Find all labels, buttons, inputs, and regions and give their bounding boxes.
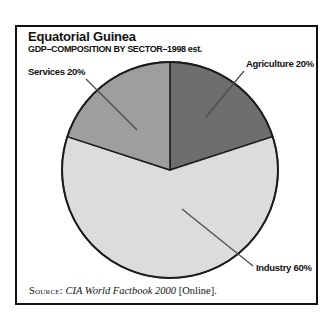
source-work-title: CIA World Factbook 2000	[66, 285, 177, 296]
source-citation: Source: CIA World Factbook 2000 [Online]…	[29, 285, 217, 296]
figure-page: Equatorial Guinea GDP–COMPOSITION BY SEC…	[0, 0, 334, 319]
slice-label-services: Services 20%	[28, 66, 85, 77]
pie-slices	[62, 62, 278, 278]
source-suffix: [Online].	[179, 285, 217, 296]
source-prefix: Source:	[29, 285, 63, 296]
slice-label-agriculture: Agriculture 20%	[246, 58, 314, 69]
slice-label-industry: Industry 60%	[256, 262, 312, 273]
